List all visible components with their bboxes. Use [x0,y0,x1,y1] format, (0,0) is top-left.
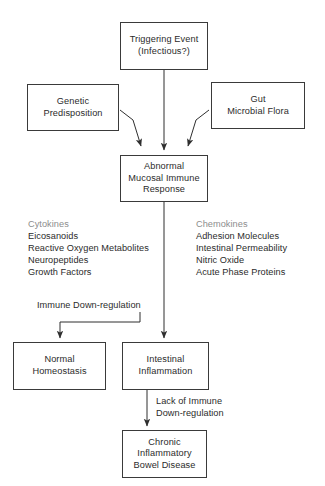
node-homeostasis-line2: Homeostasis [32,366,86,378]
node-genetic-predisposition[interactable]: Genetic Predisposition [27,84,119,131]
mediator-left-item1: Cytokines [28,219,149,231]
node-gut-microbial-flora[interactable]: Gut Microbial Flora [211,82,305,129]
mediator-right-item3: Intestinal Permeability [196,243,287,255]
edge-label-immune-down-regulation-text: Immune Down-regulation [37,300,141,312]
node-homeostasis-line1: Normal [44,354,74,366]
node-normal-homeostasis[interactable]: Normal Homeostasis [13,342,106,390]
node-gut-line2: Microbial Flora [227,106,289,118]
edge-genetic-to-abnormal [120,110,141,146]
mediator-right-item4: Nitric Oxide [196,255,287,267]
flowchart-canvas: Triggering Event (Infectious?) Genetic P… [0,0,325,486]
node-abnormal-line1: Abnormal [144,161,184,173]
node-abnormal-mucosal-immune-response[interactable]: Abnormal Mucosal Immune Response [120,155,208,202]
node-cibd-line2: Inflammatory [137,448,191,460]
node-triggering-event-line2: (Infectious?) [138,46,190,58]
edge-downregulation-to-homeostasis [60,322,140,338]
node-chronic-inflammatory-bowel-disease[interactable]: Chronic Inflammatory Bowel Disease [122,430,207,478]
mediator-right-item1: Chemokines [196,219,287,231]
mediator-right-item2: Adhesion Molecules [196,231,287,243]
node-inflammation-line2: Inflammation [139,366,193,378]
node-intestinal-inflammation[interactable]: Intestinal Inflammation [122,342,209,390]
node-gut-line1: Gut [250,94,265,106]
mediator-left-item5: Growth Factors [28,267,149,279]
node-abnormal-line3: Response [143,184,185,196]
node-inflammation-line1: Intestinal [147,354,185,366]
node-triggering-event-line1: Triggering Event [130,34,199,46]
edge-label-lack-of-immune-down-regulation: Lack of Immune Down-regulation [156,396,224,419]
node-triggering-event[interactable]: Triggering Event (Infectious?) [120,22,208,70]
mediator-list-left: Cytokines Eicosanoids Reactive Oxygen Me… [28,219,149,279]
node-cibd-line1: Chronic [148,437,180,449]
mediator-left-item3: Reactive Oxygen Metabolites [28,243,149,255]
mediator-left-item4: Neuropeptides [28,255,149,267]
edge-label-lack-line1: Lack of Immune [156,396,224,408]
edge-gut-to-abnormal [188,110,209,146]
mediator-left-item2: Eicosanoids [28,231,149,243]
mediator-list-right: Chemokines Adhesion Molecules Intestinal… [196,219,287,279]
node-genetic-line2: Predisposition [43,108,102,120]
mediator-right-item5: Acute Phase Proteins [196,267,287,279]
edge-label-immune-down-regulation: Immune Down-regulation [37,300,141,312]
edge-label-lack-line2: Down-regulation [156,408,224,420]
node-genetic-line1: Genetic [57,96,89,108]
node-abnormal-line2: Mucosal Immune [128,173,199,185]
node-cibd-line3: Bowel Disease [133,460,195,472]
